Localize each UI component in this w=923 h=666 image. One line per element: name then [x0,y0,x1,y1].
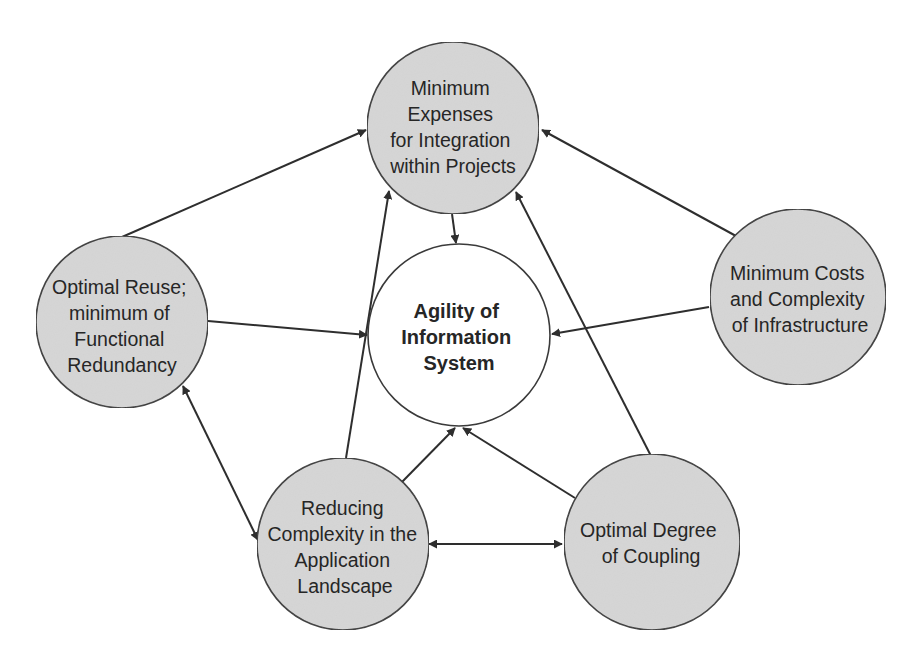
edge-min-expenses-to-agility [452,214,456,243]
node-reducing-complexity: Reducing Complexity in the Application L… [257,458,429,630]
edge-min-costs-to-agility [552,307,709,334]
edge-reducing-complexity-to-agility [401,428,455,483]
edge-optimal-reuse-to-agility [208,321,367,335]
node-circle [564,454,740,630]
agility-diagram: Minimum Expenses for Integration within … [0,0,923,666]
edge-min-costs-to-min-expenses [542,130,736,236]
node-min-expenses: Minimum Expenses for Integration within … [367,42,539,214]
node-optimal-reuse: Optimal Reuse; minimum of Functional Red… [36,236,208,408]
node-optimal-coupling: Optimal Degree of Coupling [564,454,740,630]
edge-optimal-reuse-reducing-complexity-bidirectional [183,386,258,540]
node-circle [367,42,539,214]
node-agility-center: Agility of Information System [368,244,550,426]
node-min-costs: Minimum Costs and Complexity of Infrastr… [710,209,886,385]
edge-optimal-reuse-to-min-expenses [122,130,366,237]
edge-optimal-coupling-to-agility [463,428,575,498]
node-label: Minimum Costs and Complexity of Infrastr… [730,262,870,336]
